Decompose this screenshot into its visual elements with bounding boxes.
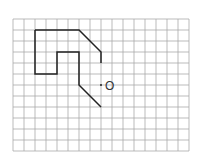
- point-o-label: O: [105, 79, 114, 93]
- grid-diagram: O: [0, 0, 201, 167]
- point-o-marker: [100, 84, 102, 86]
